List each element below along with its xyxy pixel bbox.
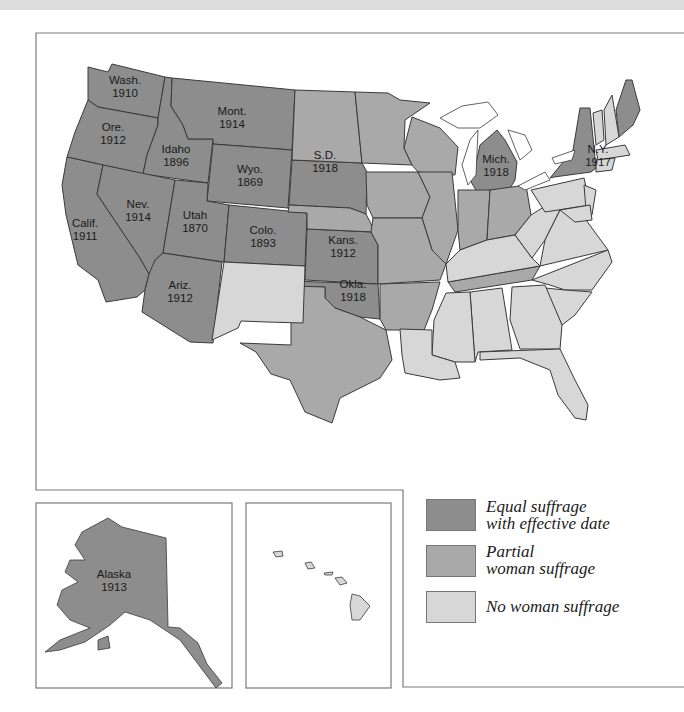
label-montana: Mont.1914 <box>218 105 247 130</box>
label-south-dakota: S.D.1918 <box>312 149 338 174</box>
hawaii-inset <box>273 551 370 620</box>
label-idaho: Idaho1896 <box>162 143 191 168</box>
state-maine <box>616 80 640 137</box>
legend-item-none: No woman suffrage <box>422 591 684 637</box>
state-alaska <box>45 518 222 688</box>
state-iowa <box>366 172 430 218</box>
state-mississippi <box>432 292 475 362</box>
label-oklahoma: Okla.1918 <box>340 278 367 303</box>
label-arizona: Ariz.1912 <box>167 279 193 304</box>
legend: Equal suffrage with effective date Parti… <box>422 490 684 637</box>
label-wyoming: Wyo.1869 <box>237 163 263 188</box>
label-colorado: Colo.1893 <box>250 224 277 249</box>
label-new-york: N.Y.1917 <box>585 143 611 168</box>
lake-superior <box>440 102 498 128</box>
hawaii-frame <box>246 503 391 688</box>
label-kansas: Kans.1912 <box>328 234 357 259</box>
label-michigan: Mich.1918 <box>482 153 509 178</box>
island-kauai <box>273 551 283 557</box>
island-molokai <box>324 572 333 575</box>
legend-swatch-none <box>426 591 476 623</box>
label-alaska: Alaska1913 <box>97 568 132 593</box>
label-oregon: Ore.1912 <box>100 121 126 146</box>
legend-swatch-equal <box>426 499 476 531</box>
island-maui <box>335 577 347 585</box>
legend-label-partial: Partial woman suffrage <box>486 543 595 577</box>
legend-swatch-partial <box>426 545 476 577</box>
island-hawaii <box>350 594 370 620</box>
state-florida <box>480 349 588 420</box>
label-nevada: Nev.1914 <box>125 198 151 223</box>
label-washington: Wash.1910 <box>109 74 141 99</box>
label-california: Calif.1911 <box>72 217 98 242</box>
island-oahu <box>305 562 315 569</box>
state-wisconsin <box>404 117 458 175</box>
state-arkansas <box>380 282 440 330</box>
legend-label-equal: Equal suffrage with effective date <box>486 498 610 532</box>
alaska-island <box>98 636 110 650</box>
alaska-inset: Alaska1913 <box>45 518 222 688</box>
legend-label-none: No woman suffrage <box>486 598 619 615</box>
label-utah: Utah1870 <box>182 209 208 234</box>
legend-item-partial: Partial woman suffrage <box>422 545 684 591</box>
legend-item-equal: Equal suffrage with effective date <box>422 499 684 545</box>
state-vermont <box>593 110 604 145</box>
